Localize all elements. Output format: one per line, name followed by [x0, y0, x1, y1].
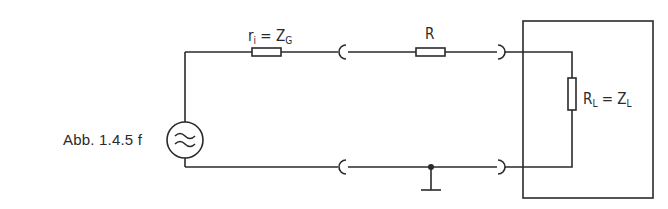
- label-ri-zg: ri = ZG: [248, 27, 292, 46]
- connector-left-bottom-icon: [339, 160, 346, 174]
- wire-top-5: [505, 52, 572, 78]
- wire-load-bottom: [505, 110, 572, 167]
- ground-icon: [421, 164, 441, 190]
- resistor-ri-icon: [252, 48, 281, 56]
- resistor-rl-icon: [568, 78, 576, 110]
- load-enclosure: [523, 21, 653, 198]
- connector-right-bottom-icon: [498, 160, 505, 174]
- resistor-r-icon: [416, 48, 445, 56]
- circuit-diagram: ri = ZG R RL = ZL: [0, 0, 668, 209]
- connector-left-top-icon: [339, 45, 346, 59]
- label-rl-zl: RL = ZL: [583, 90, 632, 109]
- ac-source-icon: [167, 122, 203, 158]
- connector-right-top-icon: [498, 45, 505, 59]
- label-r: R: [425, 25, 434, 43]
